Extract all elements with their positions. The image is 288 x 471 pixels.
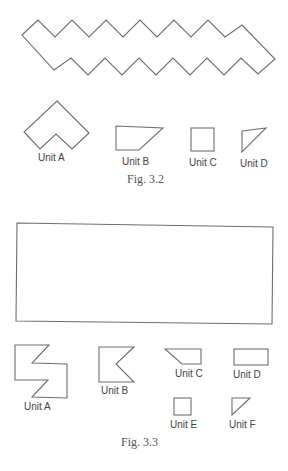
- fig32-unit-c-shape: [191, 128, 214, 151]
- fig33-unit-d-shape: [234, 349, 268, 365]
- fig33-unit-f-label: Unit F: [229, 419, 256, 430]
- fig32-unit-a-label: Unit A: [38, 152, 65, 163]
- fig33-unit-a-label: Unit A: [24, 401, 51, 412]
- fig33-rectangle-shape: [16, 223, 273, 324]
- fig33-caption: Fig. 3.3: [121, 435, 158, 450]
- fig33-unit-d-label: Unit D: [233, 369, 261, 380]
- fig32-unit-d-shape: [242, 128, 266, 152]
- fig32-unit-d-label: Unit D: [240, 158, 268, 169]
- fig32-unit-c-label: Unit C: [189, 157, 217, 168]
- fig32-unit-a-shape: [24, 101, 89, 149]
- fig33-unit-b-label: Unit B: [101, 385, 128, 396]
- fig33-unit-b-shape: [99, 347, 134, 382]
- fig33-unit-c-label: Unit C: [175, 368, 203, 379]
- fig33-unit-a-shape: [15, 345, 67, 398]
- fig32-unit-b-shape: [116, 126, 163, 150]
- fig33-unit-e-shape: [174, 398, 191, 415]
- fig32-caption: Fig. 3.2: [127, 172, 164, 187]
- fig32-zigzag-shape: [22, 20, 275, 75]
- fig33-unit-f-shape: [232, 398, 250, 415]
- fig32-unit-b-label: Unit B: [122, 156, 149, 167]
- fig33-unit-e-label: Unit E: [170, 419, 197, 430]
- fig33-unit-c-shape: [165, 349, 201, 364]
